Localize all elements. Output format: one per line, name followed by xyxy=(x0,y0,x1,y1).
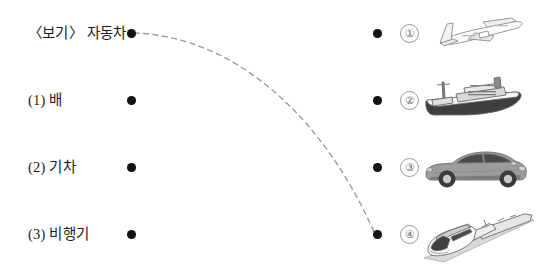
match-line-example-to-3[interactable] xyxy=(134,33,374,232)
train-illustration xyxy=(420,206,538,268)
ship-illustration xyxy=(420,70,532,126)
circled-number-2: ② xyxy=(400,91,419,110)
circled-number-3: ③ xyxy=(400,158,419,177)
airplane-illustration xyxy=(420,8,532,58)
right-dot-1[interactable] xyxy=(373,29,382,38)
circled-number-1: ① xyxy=(400,24,419,43)
left-label-2: (2) 기차 xyxy=(28,155,132,179)
right-dot-2[interactable] xyxy=(373,96,382,105)
car-illustration xyxy=(420,142,532,194)
left-dot-3[interactable] xyxy=(127,230,136,239)
worksheet-page: 〈보기〉 자동차 (1) 배 (2) 기차 (3) 비행기 ① ② ③ ④ xyxy=(0,0,554,279)
left-dot-2[interactable] xyxy=(127,163,136,172)
left-dot-1[interactable] xyxy=(127,96,136,105)
left-label-3: (3) 비행기 xyxy=(28,222,132,246)
left-label-1: (1) 배 xyxy=(28,88,132,112)
circled-number-4: ④ xyxy=(400,225,419,244)
left-label-example: 〈보기〉 자동차 xyxy=(28,21,132,45)
right-dot-3[interactable] xyxy=(373,163,382,172)
right-dot-4[interactable] xyxy=(373,230,382,239)
left-dot-example[interactable] xyxy=(127,29,136,38)
